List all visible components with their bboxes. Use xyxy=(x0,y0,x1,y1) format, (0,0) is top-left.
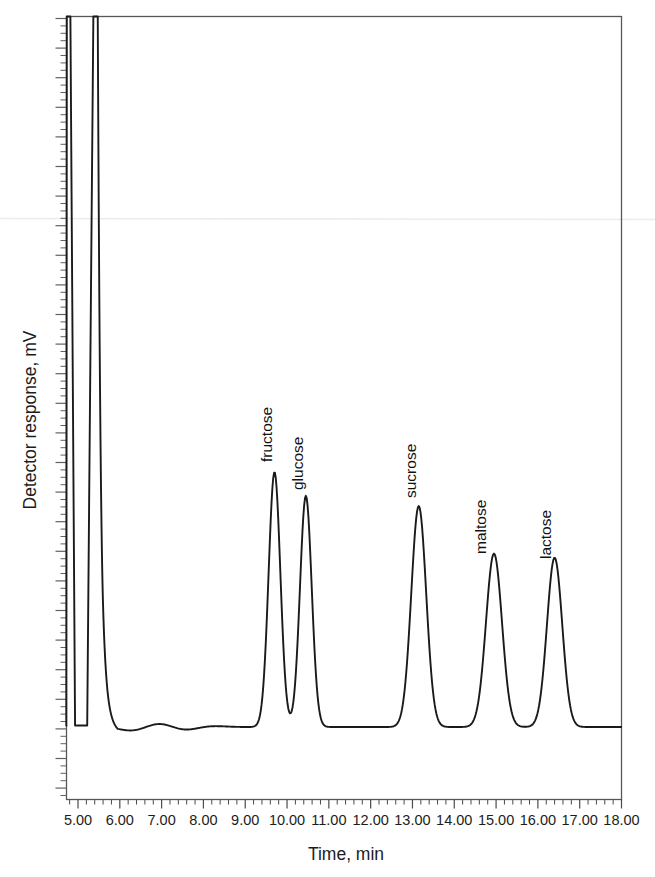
x-tick-label: 18.00 xyxy=(603,812,639,828)
x-axis-tick-labels: 5.006.007.008.009.0010.0011.0012.0013.00… xyxy=(64,812,640,828)
chromatogram-figure: 5.006.007.008.009.0010.0011.0012.0013.00… xyxy=(0,0,655,877)
x-tick-label: 15.00 xyxy=(478,812,514,828)
x-tick-label: 13.00 xyxy=(394,812,430,828)
peak-label-glucose: glucose xyxy=(289,437,306,490)
x-tick-label: 8.00 xyxy=(189,812,217,828)
peak-label-maltose: maltose xyxy=(472,500,489,554)
x-tick-label: 10.00 xyxy=(269,812,305,828)
peak-label-fructose: fructose xyxy=(258,407,275,462)
x-tick-label: 6.00 xyxy=(106,812,134,828)
x-tick-label: 14.00 xyxy=(436,812,472,828)
x-tick-label: 9.00 xyxy=(231,812,259,828)
x-tick-label: 11.00 xyxy=(311,812,346,828)
peak-label-sucrose: sucrose xyxy=(402,444,419,498)
x-tick-label: 5.00 xyxy=(64,812,92,828)
chart-canvas: 5.006.007.008.009.0010.0011.0012.0013.00… xyxy=(0,0,655,877)
y-axis-title: Detector response, mV xyxy=(20,330,40,509)
x-tick-label: 12.00 xyxy=(353,812,389,828)
peak-label-lactose: lactose xyxy=(537,510,554,559)
x-axis-title: Time, min xyxy=(308,844,384,864)
x-tick-label: 7.00 xyxy=(148,812,176,828)
x-tick-label: 16.00 xyxy=(520,812,556,828)
x-tick-label: 17.00 xyxy=(562,812,598,828)
